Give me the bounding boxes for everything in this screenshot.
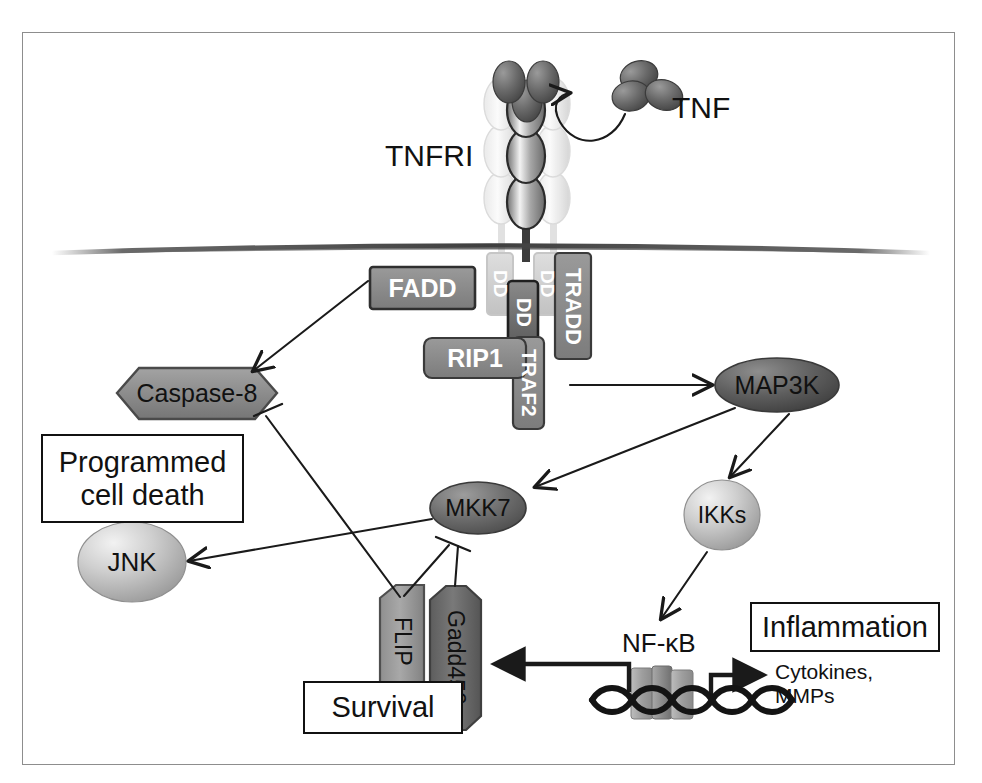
programmed-cell-death-box: Programmed cell death: [41, 434, 244, 523]
programmed-cell-death-label: Programmed cell death: [59, 446, 227, 511]
caspase8-label: Caspase-8: [117, 368, 277, 419]
dna-double-helix: [592, 688, 792, 712]
inflammation-label: Inflammation: [762, 611, 928, 643]
ikks-label: IKKs: [684, 480, 760, 550]
inflammation-box: Inflammation: [750, 602, 940, 652]
cytokines-mmps-label: Cytokines, MMPs: [775, 660, 873, 707]
survival-box: Survival: [303, 681, 463, 734]
nfkb-label: NF-κB: [622, 628, 696, 659]
jnk-label: JNK: [78, 522, 186, 602]
survival-label: Survival: [331, 691, 434, 723]
figure-canvas: TNF TNFRI FADD DD DD DD TRADD RIP1 TRAF2…: [0, 0, 982, 783]
map3k-label: MAP3K: [715, 358, 839, 412]
mkk7-label: MKK7: [430, 482, 526, 534]
tnf-label: TNF: [672, 91, 730, 125]
tnfri-label: TNFRI: [385, 139, 473, 173]
